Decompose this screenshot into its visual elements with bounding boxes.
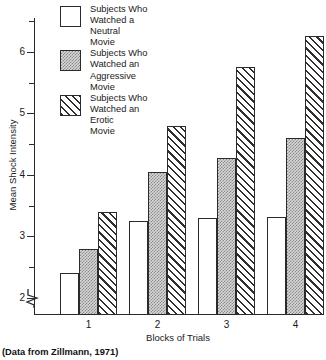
bar-chart-figure: Subjects Who Watched a Neutral Movie Sub… bbox=[0, 0, 326, 360]
source-caption: (Data from Zillmann, 1971) bbox=[2, 347, 118, 358]
x-tick-label: 1 bbox=[69, 319, 109, 330]
y-tick-label: 4 bbox=[19, 169, 25, 180]
bar-erotic-block-4 bbox=[305, 36, 324, 315]
bar-erotic-block-2 bbox=[167, 126, 186, 315]
x-axis-title: Blocks of Trials bbox=[34, 332, 322, 343]
y-tick-label-wrap: 5 bbox=[0, 113, 34, 114]
y-tick-label: 6 bbox=[19, 46, 25, 57]
bar-neutral-block-3 bbox=[198, 218, 217, 315]
y-tick-label-wrap: 3 bbox=[0, 236, 34, 237]
bar-neutral-block-2 bbox=[129, 221, 148, 315]
y-tick-label: 3 bbox=[19, 230, 25, 241]
bar-aggressive-block-1 bbox=[79, 249, 98, 315]
bars-container bbox=[34, 18, 322, 315]
y-tick-label-wrap: 6 bbox=[0, 52, 34, 53]
y-tick-label-wrap: 4 bbox=[0, 175, 34, 176]
bar-neutral-block-1 bbox=[60, 273, 79, 315]
y-axis-title: Mean Shock Intensity bbox=[8, 95, 18, 235]
x-tick-label: 3 bbox=[207, 319, 247, 330]
bar-aggressive-block-3 bbox=[217, 158, 236, 315]
x-tick-label: 2 bbox=[138, 319, 178, 330]
y-tick-label: 5 bbox=[19, 107, 25, 118]
bar-aggressive-block-4 bbox=[286, 138, 305, 315]
bar-aggressive-block-2 bbox=[148, 172, 167, 315]
bar-erotic-block-3 bbox=[236, 67, 255, 315]
bar-erotic-block-1 bbox=[98, 212, 117, 315]
bar-neutral-block-4 bbox=[267, 217, 286, 315]
x-tick-label: 4 bbox=[276, 319, 316, 330]
